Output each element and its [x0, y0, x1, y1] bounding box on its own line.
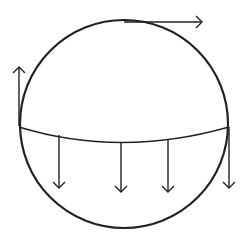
- outer-circle: [20, 20, 228, 228]
- arrow-group: [13, 16, 235, 192]
- arrow-top-right-icon: [124, 16, 202, 28]
- circle-arrows-diagram: [0, 0, 246, 238]
- arrow-down-right-edge-icon: [223, 127, 235, 188]
- diagram-canvas: [0, 0, 246, 238]
- arrow-down-2-icon: [115, 142, 127, 192]
- arrow-down-1-icon: [53, 135, 65, 188]
- arrow-down-3-icon: [162, 139, 174, 192]
- dividing-chord: [19, 127, 229, 143]
